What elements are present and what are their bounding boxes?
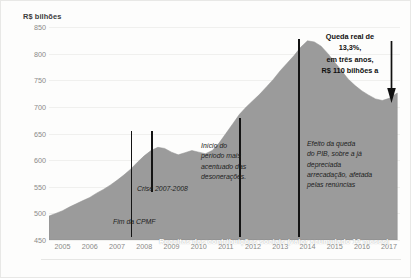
y-tick-label: 700 [34,102,46,111]
y-tick-label: 600 [34,156,46,165]
annotation-fim-cpmf: Fim da CPMF [113,217,156,227]
x-tick-label: 2008 [136,242,152,251]
callout-queda-real: Queda real de 13,3%, em três anos, R$ 11… [302,31,398,76]
annotation-desoneracoes: Início do período mais acentuado das des… [201,141,263,182]
y-axis-title: R$ bilhões [23,12,61,21]
y-tick-label: 450 [34,236,46,245]
y-tick-label: 500 [34,209,46,218]
marker-line-efeito-queda-pib [298,39,300,238]
x-tick-label: 2006 [82,242,98,251]
annotation-efeito-pib: Efeito da queda do PIB, sobre a já depre… [307,139,387,191]
y-tick-label: 850 [34,23,46,32]
y-tick-label: 550 [34,182,46,191]
marker-line-crise-2007-2008 [151,131,153,192]
y-tick-label: 750 [34,76,46,85]
down-arrow-icon [387,41,396,103]
axis-baseline [41,259,401,260]
y-axis-tick-labels: 850800750700650600550500450 [21,27,46,240]
chart-page: R$ bilhões 850800750700650600550500450 R… [0,0,411,278]
x-tick-label: 2007 [109,242,125,251]
x-tick-label: 2005 [55,242,71,251]
series-caption: Receitas das contribuições sociais (valo… [159,237,389,246]
annotation-crise: Crise 2007-2008 [137,184,188,194]
y-tick-label: 650 [34,129,46,138]
y-tick-label: 800 [34,49,46,58]
